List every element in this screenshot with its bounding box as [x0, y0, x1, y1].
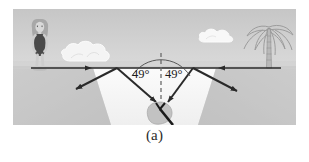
- angle-label-right: 49°: [165, 67, 183, 82]
- angle-label-left: 49°: [132, 67, 150, 82]
- submerged-rock-with-stick: [147, 102, 173, 125]
- optics-figure: 49° 49° (a): [0, 0, 309, 162]
- scene-svg: [13, 9, 296, 125]
- figure-caption: (a): [0, 127, 309, 144]
- scene-illustration: 49° 49°: [13, 9, 296, 125]
- palm-trunk: [267, 29, 272, 68]
